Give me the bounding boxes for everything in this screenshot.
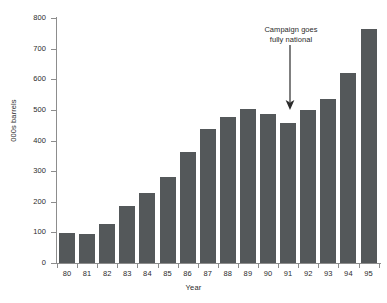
x-axis-tick [238,264,239,268]
y-axis-tick-label: 200 [6,198,46,206]
plot-area [57,18,380,263]
x-axis-tick [359,264,360,268]
bar-85 [160,177,176,263]
y-axis-title: 000s barrels [9,86,18,156]
x-axis-tick [318,264,319,268]
down-arrow-icon [281,45,299,111]
x-axis-tick [379,264,380,268]
x-axis-tick-label: 95 [357,270,381,278]
y-axis-tick [51,49,56,50]
x-axis-tick [218,264,219,268]
y-axis-tick-label: 100 [6,228,46,236]
x-axis-tick [97,264,98,268]
x-axis-tick [158,264,159,268]
annotation-line-2: fully national [270,35,312,44]
bar-95 [361,29,377,263]
x-axis-tick [258,264,259,268]
y-axis-tick [51,18,56,19]
bar-84 [139,193,155,263]
bar-90 [260,114,276,263]
x-axis-tick [298,264,299,268]
x-axis-tick [57,264,58,268]
bar-89 [240,109,256,263]
bar-80 [59,233,75,263]
bar-82 [99,224,115,263]
y-axis-tick [51,202,56,203]
x-axis-tick [77,264,78,268]
x-axis-tick [117,264,118,268]
bar-chart: 0100200300400500600700800 80818283848586… [0,0,387,303]
y-axis-tick [51,171,56,172]
x-axis-tick [278,264,279,268]
y-axis-tick-label: 700 [6,45,46,53]
bar-86 [180,152,196,263]
x-axis-title: Year [0,283,387,292]
y-axis-tick-label: 800 [6,14,46,22]
bar-92 [300,110,316,263]
x-axis-tick [137,264,138,268]
bar-81 [79,234,95,263]
y-axis-tick [51,263,56,264]
y-axis-tick-label: 0 [6,259,46,267]
y-axis-tick-label: 600 [6,75,46,83]
bar-94 [340,73,356,263]
bar-83 [119,206,135,263]
annotation-label: Campaign goes fully national [243,25,339,44]
bar-88 [220,117,236,263]
y-axis-tick [51,232,56,233]
x-axis-tick [338,264,339,268]
x-axis-tick [178,264,179,268]
x-axis-tick [198,264,199,268]
y-axis-tick [51,141,56,142]
bar-93 [320,99,336,263]
y-axis-tick [51,79,56,80]
annotation-line-1: Campaign goes [264,25,317,34]
bar-91 [280,123,296,263]
y-axis-tick [51,110,56,111]
y-axis-tick-label: 300 [6,167,46,175]
bar-87 [200,129,216,263]
